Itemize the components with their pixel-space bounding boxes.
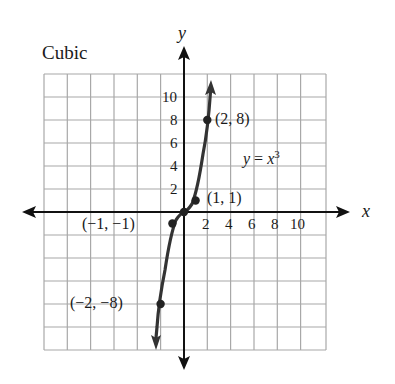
point-label-1-1: (1, 1) [207, 190, 242, 206]
x-tick-8: 8 [271, 217, 279, 232]
plot-area [0, 0, 395, 384]
x-tick-4: 4 [225, 217, 233, 232]
equation-exponent: 3 [274, 148, 280, 160]
equation-eq: = [250, 150, 267, 167]
y-tick-2: 2 [170, 182, 178, 197]
axes [30, 52, 342, 362]
x-tick-10: 10 [290, 217, 305, 232]
x-axis-label: x [362, 202, 370, 220]
y-tick-10: 10 [162, 90, 177, 105]
point-label-2-8: (2, 8) [215, 111, 250, 127]
x-tick-2: 2 [202, 217, 210, 232]
y-tick-8: 8 [170, 113, 178, 128]
point-label-neg2-neg8: (−2, −8) [70, 295, 123, 311]
y-tick-6: 6 [170, 136, 178, 151]
y-axis-label: y [178, 24, 186, 42]
point-label-neg1-neg1: (−1, −1) [82, 216, 135, 232]
equation-label: y = x3 [243, 149, 280, 167]
y-tick-4: 4 [170, 159, 178, 174]
x-tick-6: 6 [248, 217, 256, 232]
